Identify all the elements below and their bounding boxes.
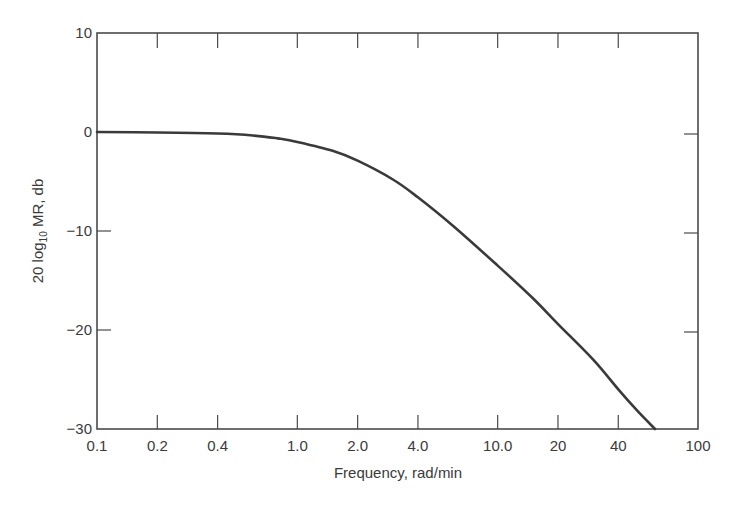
x-axis-tick-labels: 0.10.20.41.02.04.010.02040100 xyxy=(87,437,711,454)
x-tick-label: 0.4 xyxy=(207,437,228,454)
y-axis-title: 20 log10 MR, db xyxy=(29,179,49,284)
y-axis-title-suffix: MR, db xyxy=(29,179,46,232)
y-tick-label: −30 xyxy=(67,420,92,437)
x-tick-label: 0.2 xyxy=(147,437,168,454)
y-axis-title-prefix: 20 log xyxy=(29,242,46,283)
y-axis-tick-labels: 100−10−20−30 xyxy=(67,24,92,437)
y-tick-label: 10 xyxy=(75,24,92,41)
x-tick-label: 4.0 xyxy=(408,437,429,454)
x-tick-label: 2.0 xyxy=(347,437,368,454)
y-axis-title-subscript: 10 xyxy=(38,231,49,243)
x-tick-label: 10.0 xyxy=(483,437,512,454)
x-tick-label: 0.1 xyxy=(87,437,108,454)
x-axis-title: Frequency, rad/min xyxy=(334,464,462,481)
x-tick-label: 1.0 xyxy=(287,437,308,454)
y-tick-label: 0 xyxy=(84,123,92,140)
y-tick-label: −20 xyxy=(67,321,92,338)
x-axis-ticks xyxy=(157,33,618,429)
bode-magnitude-chart: 0.10.20.41.02.04.010.02040100 100−10−20−… xyxy=(0,0,733,507)
x-tick-label: 20 xyxy=(550,437,567,454)
data-series xyxy=(97,132,655,429)
x-tick-label: 100 xyxy=(685,437,710,454)
magnitude-curve xyxy=(97,132,655,429)
x-tick-label: 40 xyxy=(610,437,627,454)
plot-frame xyxy=(97,33,698,429)
y-tick-label: −10 xyxy=(67,222,92,239)
y-axis-ticks xyxy=(97,132,698,332)
plot-border xyxy=(97,33,698,429)
